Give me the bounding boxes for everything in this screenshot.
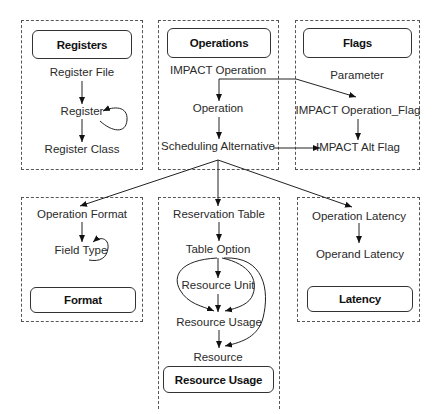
edge-tableoption-resusage-left — [177, 258, 217, 311]
edge-schedalt-opformat — [80, 160, 218, 206]
edge-schedalt-oplatency — [218, 160, 352, 207]
edge-tableoption-resource — [224, 258, 266, 346]
edge-fieldtype-selfloop — [89, 239, 108, 261]
edge-register-selfloop — [100, 108, 127, 130]
edge-tableoption-resusage-right — [222, 258, 254, 311]
edges-layer — [0, 0, 441, 414]
